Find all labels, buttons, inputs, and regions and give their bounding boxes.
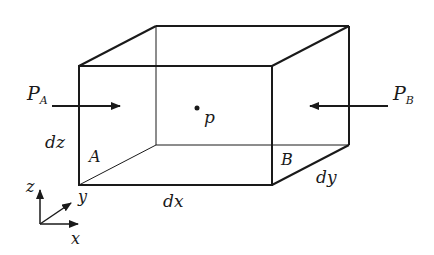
z-axis-label: z [25,177,35,196]
dy-label: dy [316,167,337,187]
face-a-label: A [87,147,101,166]
x-axis-label: x [71,229,80,248]
pa-label: PA [26,82,48,107]
top-right-diagonal-edge [272,26,349,66]
face-b-label: B [280,150,293,169]
center-point-icon [195,106,200,111]
coordinate-axes [40,190,78,224]
dx-label: dx [163,191,184,211]
top-left-diagonal-edge [79,26,156,66]
fluid-element-diagram: PA PB p A B dz dx dy z y x [0,0,434,255]
y-axis-arrow-icon [40,203,71,224]
dz-label: dz [45,132,66,152]
point-p-label: p [204,107,215,127]
pb-label: PB [392,82,414,107]
y-axis-label: y [77,187,88,206]
front-face [79,66,272,185]
